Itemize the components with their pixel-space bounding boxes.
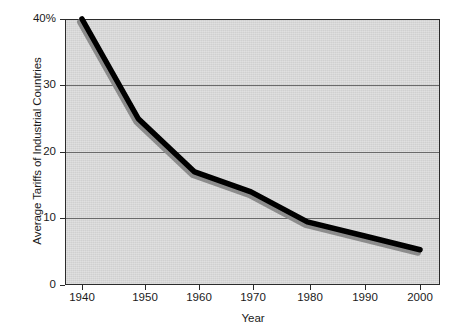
tariff-line-shadow [80, 22, 418, 253]
series-layer [0, 0, 465, 334]
tariffs-line-chart: Average Tariffs of Industrial Countries … [0, 0, 465, 334]
tariff-line [82, 19, 420, 250]
